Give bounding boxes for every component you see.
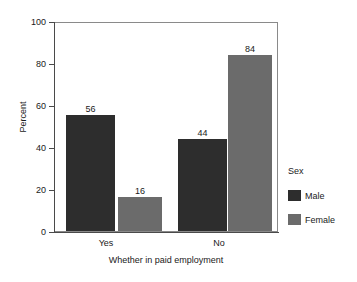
legend-swatch-male	[288, 190, 301, 201]
y-tick-label-100: 100	[31, 18, 46, 27]
legend-swatch-female	[288, 214, 301, 225]
bar-label-no-female: 84	[228, 44, 272, 54]
bar-yes-male	[66, 115, 115, 231]
y-tick-mark-20	[49, 190, 54, 191]
y-tick-mark-100	[49, 22, 54, 23]
y-tick-label-80: 80	[36, 60, 46, 69]
x-group-label-no: No	[189, 238, 249, 248]
y-tick-label-40: 40	[36, 144, 46, 153]
y-axis-line	[54, 22, 55, 233]
y-tick-mark-80	[49, 64, 54, 65]
legend: Sex Male Female	[288, 166, 335, 238]
bar-label-yes-male: 56	[66, 104, 115, 114]
legend-item-male: Male	[288, 190, 335, 201]
bar-no-male	[178, 139, 227, 231]
legend-title: Sex	[288, 166, 335, 176]
y-tick-label-20: 20	[36, 186, 46, 195]
x-axis-line	[54, 232, 279, 233]
bar-no-female	[228, 55, 272, 231]
y-axis-title: Percent	[18, 87, 28, 147]
legend-label-male: Male	[305, 191, 325, 201]
bar-label-yes-female: 16	[118, 186, 162, 196]
y-tick-label-0: 0	[41, 228, 46, 237]
y-tick-label-60: 60	[36, 102, 46, 111]
bar-chart: 56 16 44 84 100 80 60 40 20 0 Percent Ye…	[0, 0, 357, 282]
x-group-label-yes: Yes	[76, 238, 136, 248]
x-axis-title: Whether in paid employment	[54, 255, 278, 265]
legend-label-female: Female	[305, 215, 335, 225]
legend-item-female: Female	[288, 214, 335, 225]
y-tick-mark-40	[49, 148, 54, 149]
bar-yes-female	[118, 197, 162, 231]
plot-area: 56 16 44 84	[54, 22, 278, 232]
y-tick-mark-60	[49, 106, 54, 107]
bar-label-no-male: 44	[178, 128, 227, 138]
